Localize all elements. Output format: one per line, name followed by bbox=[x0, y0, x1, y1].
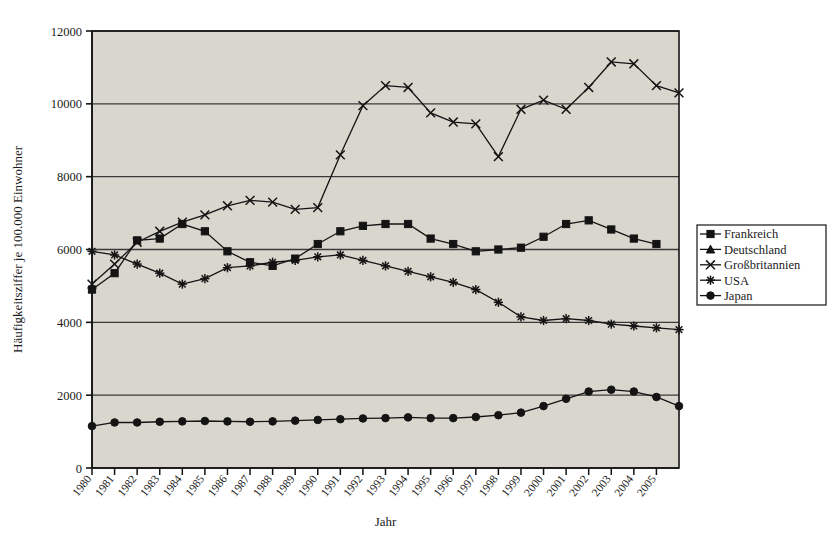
datapoint-japan bbox=[179, 418, 187, 426]
chart-figure: 020004000600080001000012000Häufigkeitszi… bbox=[0, 0, 834, 547]
x-tick-label-1980: 1980 bbox=[70, 473, 94, 499]
datapoint-frankreich bbox=[404, 220, 411, 227]
x-tick-label-1998: 1998 bbox=[476, 473, 500, 499]
x-tick-label-1988: 1988 bbox=[251, 473, 275, 499]
datapoint-japan bbox=[133, 419, 141, 427]
datapoint-japan bbox=[224, 418, 232, 426]
datapoint-japan bbox=[472, 413, 480, 421]
datapoint-frankreich bbox=[111, 270, 118, 277]
datapoint-japan bbox=[653, 393, 661, 401]
datapoint-japan bbox=[427, 414, 435, 422]
y-tick-label-4000: 4000 bbox=[57, 316, 82, 330]
x-tick-label-1995: 1995 bbox=[409, 473, 433, 499]
x-tick-label-1981: 1981 bbox=[93, 473, 117, 499]
x-axis: 1980198119821983198419851986198719881989… bbox=[70, 468, 679, 529]
datapoint-frankreich bbox=[450, 240, 457, 247]
x-tick-label-1984: 1984 bbox=[160, 473, 184, 499]
y-tick-label-8000: 8000 bbox=[57, 170, 82, 184]
legend-label: Frankreich bbox=[724, 227, 779, 241]
legend-label: Deutschland bbox=[724, 243, 787, 257]
datapoint-frankreich bbox=[472, 248, 479, 255]
x-tick-label-1992: 1992 bbox=[341, 473, 365, 499]
x-tick-label-2003: 2003 bbox=[589, 473, 613, 499]
datapoint-japan bbox=[540, 402, 548, 410]
datapoint-frankreich bbox=[495, 246, 502, 253]
x-tick-label-1982: 1982 bbox=[115, 473, 139, 499]
x-tick-label-1997: 1997 bbox=[454, 473, 478, 499]
datapoint-frankreich bbox=[517, 244, 524, 251]
datapoint-frankreich bbox=[359, 222, 366, 229]
legend-label: USA bbox=[724, 274, 749, 288]
datapoint-japan bbox=[88, 422, 96, 430]
datapoint-japan bbox=[517, 409, 525, 417]
x-tick-label-1983: 1983 bbox=[138, 473, 162, 499]
legend-label: Großbritannien bbox=[724, 258, 801, 272]
legend: FrankreichDeutschlandGroßbritannienUSAJa… bbox=[697, 225, 826, 305]
datapoint-frankreich bbox=[653, 240, 660, 247]
datapoint-japan bbox=[201, 417, 209, 425]
datapoint-frankreich bbox=[382, 220, 389, 227]
x-tick-label-1987: 1987 bbox=[228, 473, 252, 499]
x-tick-label-1989: 1989 bbox=[273, 473, 297, 499]
datapoint-frankreich bbox=[156, 235, 163, 242]
x-tick-label-1990: 1990 bbox=[296, 473, 320, 499]
legend-marker-square bbox=[707, 230, 714, 237]
datapoint-frankreich bbox=[314, 240, 321, 247]
datapoint-japan bbox=[607, 386, 615, 394]
x-axis-title: Jahr bbox=[375, 514, 397, 529]
y-tick-label-12000: 12000 bbox=[51, 25, 82, 39]
y-axis-title: Häufigkeitsziffer je 100.000 Einwohner bbox=[10, 145, 25, 353]
y-tick-label-10000: 10000 bbox=[51, 97, 82, 111]
x-tick-label-2000: 2000 bbox=[521, 473, 545, 499]
x-tick-label-1994: 1994 bbox=[386, 473, 410, 499]
datapoint-japan bbox=[630, 388, 638, 396]
datapoint-japan bbox=[156, 418, 164, 426]
datapoint-japan bbox=[246, 418, 254, 426]
datapoint-frankreich bbox=[563, 220, 570, 227]
datapoint-frankreich bbox=[540, 233, 547, 240]
datapoint-frankreich bbox=[337, 228, 344, 235]
datapoint-frankreich bbox=[427, 235, 434, 242]
x-tick-label-2001: 2001 bbox=[544, 473, 568, 499]
datapoint-japan bbox=[269, 418, 277, 426]
y-tick-label-0: 0 bbox=[76, 462, 82, 476]
x-tick-label-1986: 1986 bbox=[205, 473, 229, 499]
datapoint-japan bbox=[291, 417, 299, 425]
datapoint-japan bbox=[382, 414, 390, 422]
x-tick-label-2005: 2005 bbox=[634, 473, 658, 499]
datapoint-frankreich bbox=[201, 228, 208, 235]
x-tick-label-1993: 1993 bbox=[363, 473, 387, 499]
cropped-footer-fragment bbox=[10, 536, 300, 547]
datapoint-japan bbox=[449, 414, 457, 422]
y-tick-label-2000: 2000 bbox=[57, 389, 82, 403]
datapoint-frankreich bbox=[630, 235, 637, 242]
x-tick-label-2002: 2002 bbox=[567, 473, 591, 499]
chart-canvas: 020004000600080001000012000Häufigkeitszi… bbox=[0, 0, 834, 547]
datapoint-frankreich bbox=[608, 226, 615, 233]
datapoint-japan bbox=[675, 402, 683, 410]
datapoint-japan bbox=[359, 415, 367, 423]
legend-label: Japan bbox=[724, 289, 753, 303]
y-axis: 020004000600080001000012000Häufigkeitszi… bbox=[10, 25, 92, 476]
datapoint-japan bbox=[111, 419, 119, 427]
x-tick-label-1985: 1985 bbox=[183, 473, 207, 499]
x-tick-label-1996: 1996 bbox=[431, 473, 455, 499]
x-tick-label-2004: 2004 bbox=[612, 473, 636, 499]
datapoint-frankreich bbox=[585, 217, 592, 224]
datapoint-japan bbox=[585, 388, 593, 396]
x-tick-label-1991: 1991 bbox=[318, 473, 342, 499]
y-tick-label-6000: 6000 bbox=[57, 243, 82, 257]
legend-marker-circle bbox=[707, 292, 715, 300]
x-tick-label-1999: 1999 bbox=[499, 473, 523, 499]
datapoint-frankreich bbox=[224, 248, 231, 255]
datapoint-japan bbox=[337, 415, 345, 423]
datapoint-japan bbox=[495, 411, 503, 419]
datapoint-japan bbox=[562, 395, 570, 403]
datapoint-japan bbox=[404, 414, 412, 422]
datapoint-japan bbox=[314, 416, 322, 424]
